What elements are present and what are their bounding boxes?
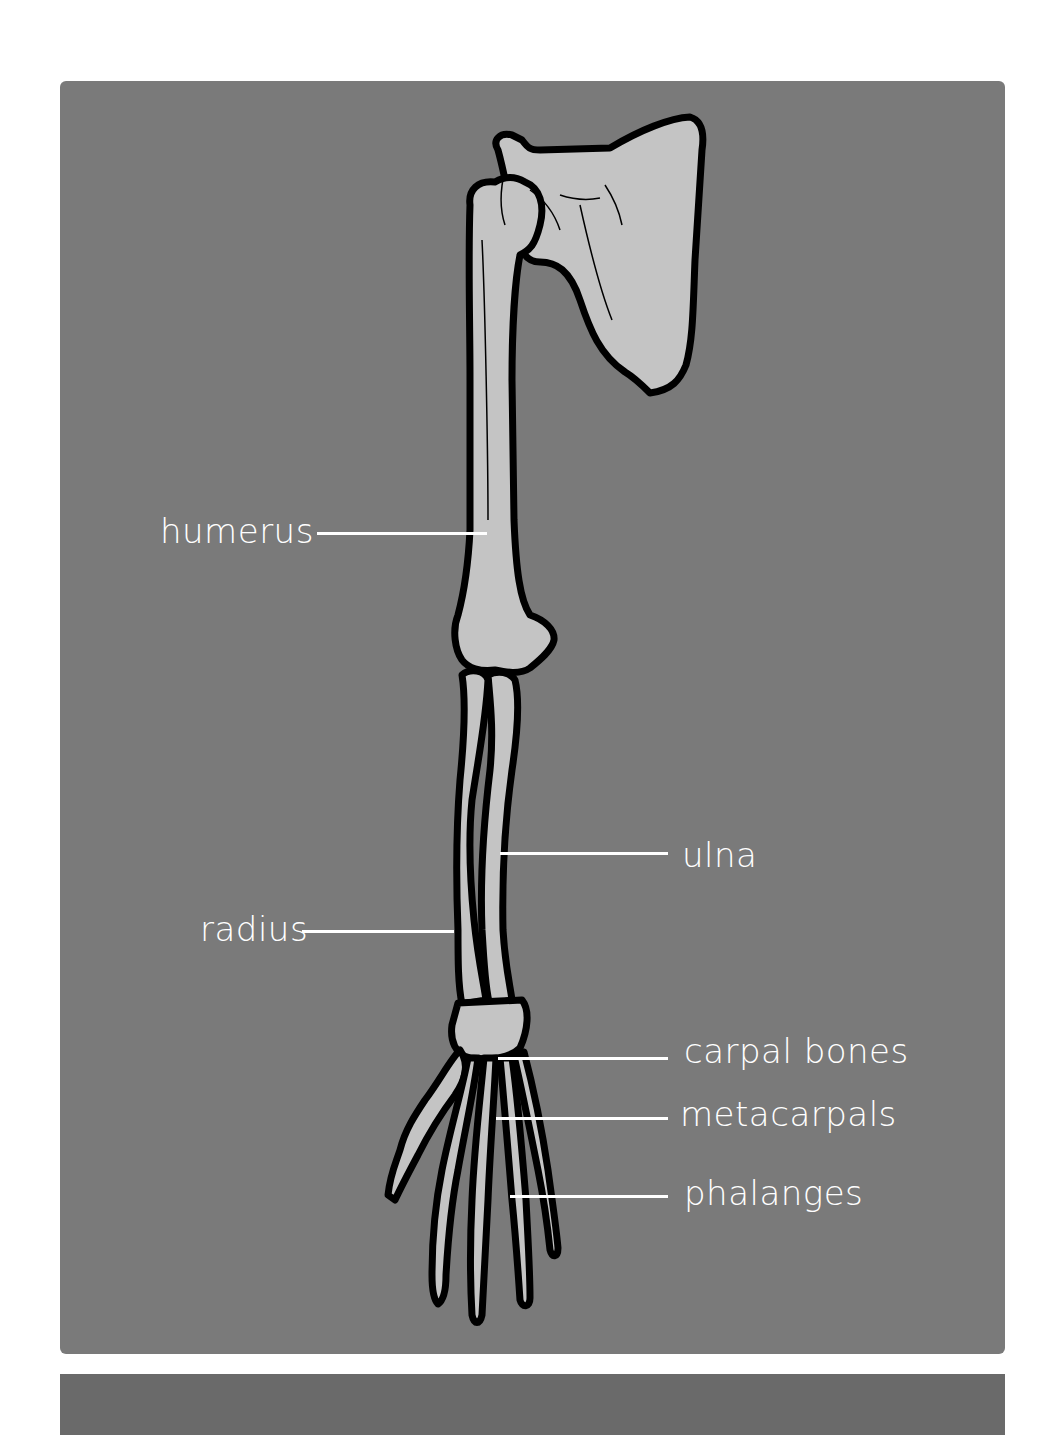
label-radius: radius [200,912,308,946]
leader-line-phalanges [510,1195,668,1198]
leader-line-ulna [500,852,668,855]
label-carpal-bones: carpal bones [684,1034,909,1068]
label-ulna: ulna [682,838,757,872]
arm-skeleton-illustration [0,0,1063,1435]
leader-line-humerus [317,532,487,535]
label-phalanges: phalanges [684,1176,863,1210]
leader-line-radius [302,930,454,933]
label-metacarpals: metacarpals [680,1097,897,1131]
leader-line-carpal-bones [498,1057,668,1060]
leader-line-metacarpals [496,1117,668,1120]
label-humerus: humerus [160,514,314,548]
scapula-shape [496,117,703,393]
